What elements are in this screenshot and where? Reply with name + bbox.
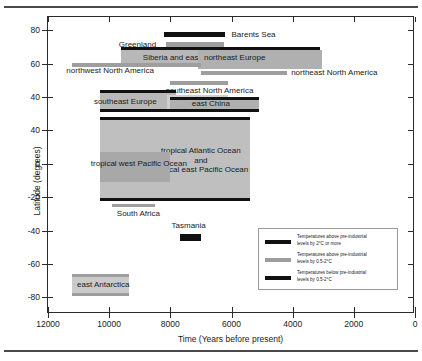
x-tick-mark [232, 312, 233, 318]
band-label: Barents Sea [232, 30, 276, 39]
x-tick-top [293, 17, 294, 22]
band-edge-top [72, 274, 129, 277]
x-tick-inner [293, 307, 294, 312]
y-tick-inner [48, 297, 53, 298]
data-band [164, 32, 225, 37]
legend-row: Temperatures above pre-industriallevels … [265, 234, 395, 252]
x-axis-title: Time (Years before present) [47, 334, 414, 344]
x-tick-mark [170, 312, 171, 318]
band-edge-bottom [180, 234, 201, 241]
band-edge-bottom [100, 109, 176, 112]
legend-label: Temperatures above pre-industriallevels … [297, 234, 397, 247]
band-label: east China [192, 99, 230, 108]
bottom-rule [4, 350, 418, 352]
legend-row: Temperatures above pre-industriallevels … [265, 252, 395, 270]
y-tick-right [408, 130, 413, 131]
band-edge-top [100, 117, 250, 120]
data-band [72, 64, 200, 66]
y-tick-right [408, 30, 413, 31]
x-tick-label: 10000 [97, 319, 121, 329]
y-tick-right [408, 97, 413, 98]
band-edge-bottom [170, 81, 228, 84]
legend-label-line: Temperatures below pre-industrial [297, 270, 397, 277]
x-tick-inner [170, 307, 171, 312]
y-tick-label: -20 [28, 192, 40, 202]
y-tick-right [408, 164, 413, 165]
band-edge-top [100, 90, 176, 93]
band-label: South Africa [117, 209, 160, 218]
data-band [180, 234, 201, 241]
y-tick-inner [48, 197, 53, 198]
legend-label-line: levels by 2°C or more [297, 241, 397, 248]
x-tick-mark [293, 312, 294, 318]
x-tick-mark [415, 312, 416, 318]
top-rule [4, 6, 418, 8]
x-tick-label: 2000 [344, 319, 363, 329]
y-tick-inner [48, 164, 53, 165]
y-tick-inner [48, 30, 53, 31]
x-tick-top [48, 17, 49, 22]
band-label: east Antarctica [77, 280, 129, 289]
data-band [112, 204, 155, 207]
y-axis-title: Latitude (degrees) [32, 146, 42, 215]
y-tick-right [408, 64, 413, 65]
x-tick-top [109, 17, 110, 22]
y-tick-right [408, 231, 413, 232]
y-tick-label: -60 [28, 259, 40, 269]
x-tick-top [354, 17, 355, 22]
band-edge-bottom [170, 109, 259, 112]
band-edge-bottom [201, 71, 287, 74]
band-edge-bottom [72, 293, 129, 296]
y-tick-inner [48, 130, 53, 131]
y-tick-label: 40 [31, 125, 40, 135]
x-tick-top [170, 17, 171, 22]
band-label: southeast Europe [94, 97, 157, 106]
x-tick-label: 8000 [161, 319, 180, 329]
figure-container: Latitude (degrees) Time (Years before pr… [0, 0, 422, 361]
y-tick-label: 60 [31, 59, 40, 69]
legend-label-line: levels by 0.5-2°C [297, 277, 397, 284]
y-tick-label: 40 [31, 92, 40, 102]
y-tick-right [408, 264, 413, 265]
legend-row: Temperatures below pre-industriallevels … [265, 270, 395, 288]
y-tick-label: -40 [28, 226, 40, 236]
y-tick-label: 80 [31, 25, 40, 35]
legend-label: Temperatures above pre-industriallevels … [297, 252, 397, 265]
x-tick-mark [109, 312, 110, 318]
band-label: northeast North America [291, 68, 377, 77]
legend-label: Temperatures below pre-industriallevels … [297, 270, 397, 283]
y-tick-inner [48, 231, 53, 232]
legend-swatch [265, 240, 291, 244]
x-tick-inner [232, 307, 233, 312]
y-tick-right [408, 297, 413, 298]
y-tick-label: 0 [35, 159, 40, 169]
band-edge-bottom [100, 198, 250, 201]
band-label: northeast Europe [204, 53, 265, 62]
y-tick-inner [48, 264, 53, 265]
x-tick-label: 12000 [36, 319, 60, 329]
x-tick-top [232, 17, 233, 22]
band-edge-bottom [112, 204, 155, 207]
y-tick-inner [48, 64, 53, 65]
y-tick-label: -80 [28, 292, 40, 302]
y-tick-right [408, 197, 413, 198]
x-tick-inner [109, 307, 110, 312]
data-band [170, 82, 228, 84]
band-label: tropical west Pacific Ocean [91, 159, 187, 168]
x-tick-inner [354, 307, 355, 312]
legend-label-line: Temperatures above pre-industrial [297, 234, 397, 241]
x-tick-inner [415, 307, 416, 312]
legend-swatch [265, 258, 291, 262]
x-tick-label: 0 [413, 319, 418, 329]
band-label: northwest North America [66, 67, 154, 76]
legend-label-line: Temperatures above pre-industrial [297, 252, 397, 259]
x-tick-top [415, 17, 416, 22]
band-edge-bottom [164, 32, 225, 37]
x-tick-inner [48, 307, 49, 312]
x-tick-mark [354, 312, 355, 318]
legend-label-line: levels by 0.5-2°C [297, 259, 397, 266]
band-edge-bottom [72, 63, 200, 66]
x-tick-mark [48, 312, 49, 318]
data-band [201, 72, 287, 74]
band-label: Tasmania [172, 221, 206, 230]
